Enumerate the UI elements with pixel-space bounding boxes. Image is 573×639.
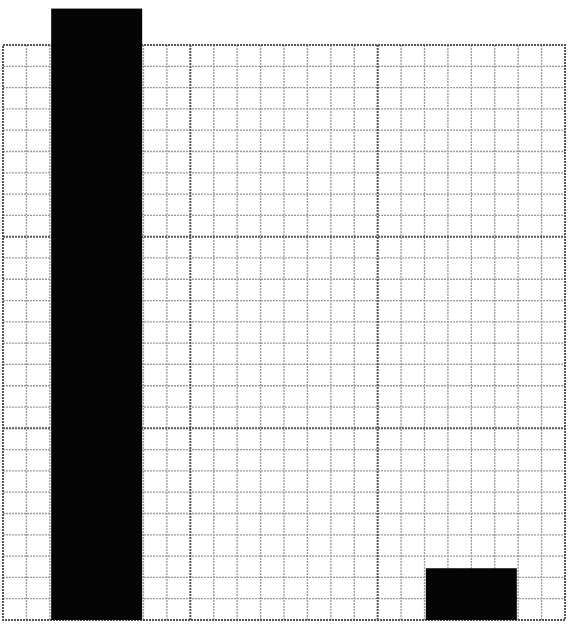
bar-chart <box>0 0 573 639</box>
bar-1 <box>51 9 142 620</box>
bar-3 <box>426 568 517 620</box>
